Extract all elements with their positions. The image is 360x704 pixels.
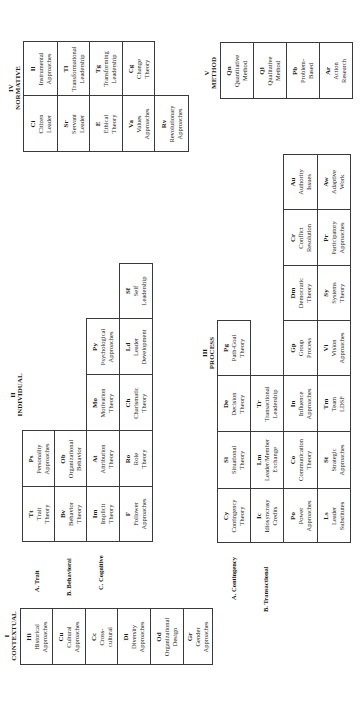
cell-name: Leadership	[271, 386, 279, 421]
cell-text: AtAttributionTheory	[91, 444, 115, 473]
cell-code: Ic	[255, 499, 263, 532]
cell-code: Tm	[322, 396, 330, 412]
taxonomy-cell-ob: ObOrganizationalBehavior	[54, 430, 87, 487]
cell-name: Theory	[305, 278, 313, 308]
cell-name: Exchange	[271, 439, 279, 481]
cell-text: AwAdaptiveWork	[322, 170, 346, 194]
cell-text: ObOrganizationalBehavior	[59, 439, 83, 478]
cell-name: Development	[140, 329, 148, 364]
cell-code: Dm	[289, 278, 297, 308]
taxonomy-cell-sy: SySystemsTheory	[317, 265, 351, 321]
cell-name: Theory	[107, 504, 115, 525]
cell-name: Leadership	[78, 46, 86, 91]
cell-code: Cg	[127, 59, 135, 79]
cell-text: PrParticipatoryApproaches	[322, 221, 346, 255]
cell-name: Transformational	[70, 46, 78, 91]
cell-text: InInfluenceApproaches	[289, 388, 313, 419]
taxonomy-cell-hi: HiHistoricalApproaches	[20, 608, 53, 665]
cell-code: Ci	[29, 114, 37, 133]
cell-text: LsLeaderSubstitutes	[322, 501, 346, 530]
cell-text: TmTeamLDSF	[322, 396, 346, 412]
cell-text: CcCross-cultural	[90, 627, 114, 647]
cell-code: St	[322, 444, 330, 475]
taxonomy-cell-cc: CcCross-cultural	[85, 608, 118, 665]
taxonomy-cell-dm: DmDemocraticTheory	[283, 265, 318, 321]
taxonomy-cell-va: VaValuesApproaches	[122, 95, 155, 152]
cell-name: Theory	[338, 282, 346, 304]
taxonomy-cell-di: DiDiversityApproaches	[117, 608, 151, 665]
cell-code: Tt	[27, 505, 35, 524]
cell-name: Approaches	[140, 498, 148, 529]
cell-code: Lm	[255, 439, 263, 481]
cell-text: IcIdiosyncrasyCredits	[255, 499, 279, 532]
cell-code: Ro	[124, 449, 132, 468]
cell-code: Bv	[59, 502, 67, 526]
section-title: PROCESS	[209, 328, 216, 378]
cell-code: Rv	[160, 105, 168, 142]
cell-name: Leader	[330, 501, 338, 530]
cell-text: DeDecisionTheory	[222, 392, 246, 415]
cell-code: Il	[29, 52, 37, 85]
taxonomy-cell-ld: LdLeaderDevelopment	[119, 318, 153, 375]
cell-code: At	[91, 444, 99, 473]
cell-code: Sf	[124, 277, 132, 306]
cell-name: Behavior	[75, 439, 83, 478]
cell-text: PbProblem-Based	[291, 58, 315, 82]
cell-name: Behavior	[67, 502, 75, 526]
section-title: INDIVIDUAL	[17, 365, 24, 425]
cell-name: Approaches	[338, 221, 346, 255]
cell-name: Strategic	[330, 444, 338, 475]
section-heading-method: V METHOD	[204, 48, 218, 98]
taxonomy-cell-cy: CyContingencyTheory	[217, 488, 251, 543]
cell-text: PsPersonalityApproaches	[27, 443, 51, 474]
cell-name: Follower	[132, 498, 140, 529]
taxonomy-cell-tg: TgTransformingLeadership	[89, 41, 123, 96]
cell-name: Ethical	[102, 114, 110, 133]
taxonomy-cell-si: SiSituationalTheory	[217, 431, 251, 489]
cell-text: MoMotivationTheory	[91, 388, 115, 417]
section-heading-normative: IV NORMATIVE	[8, 58, 22, 118]
taxonomy-cell-vi: ViVisionApproaches	[317, 320, 351, 376]
section-heading-contextual: I CONTEXTUAL	[4, 604, 18, 668]
cell-text: DmDemocraticTheory	[289, 278, 313, 308]
taxonomy-cell-at: AtAttributionTheory	[86, 430, 120, 487]
cell-name: Problem-	[299, 58, 307, 82]
taxonomy-cell-co: CoCommunicationTheory	[283, 431, 318, 489]
taxonomy-cell-tr: TrTransactionalLeadership	[250, 375, 284, 432]
cell-name: LDSF	[338, 396, 346, 412]
cell-text: BvBehaviorTheory	[59, 502, 83, 526]
cell-text: TlTransformationalLeadership	[62, 46, 86, 91]
cell-name: Charismatic	[132, 387, 140, 418]
cell-name: Approaches	[138, 621, 146, 652]
taxonomy-cell-ch: ChCharismaticTheory	[119, 374, 153, 431]
cell-text: LmLeader/MemberExchange	[255, 439, 279, 481]
cell-text: GrGenderApproaches	[186, 621, 210, 652]
cell-name: Approaches	[305, 500, 313, 531]
cell-text: RoRoleTheory	[124, 449, 148, 468]
taxonomy-cell-qn: QnQuantitativeMethod	[220, 42, 254, 99]
cell-name: Vision	[330, 332, 338, 363]
cell-code: Py	[91, 328, 99, 364]
cell-text: VaValuesApproaches	[127, 108, 151, 139]
cell-name: Power	[297, 500, 305, 531]
cell-text: CrConflictResolution	[289, 223, 313, 251]
cell-name: Design	[171, 617, 179, 656]
cell-code: Cc	[90, 627, 98, 647]
taxonomy-cell-mo: MoMotivationTheory	[86, 374, 120, 431]
cell-name: Democratic	[297, 278, 305, 308]
cell-code: Pg	[222, 335, 230, 361]
cell-code: Ar	[324, 59, 332, 83]
taxonomy-cell-cr: CrConflictResolution	[283, 209, 318, 266]
cell-name: Action	[332, 59, 340, 83]
taxonomy-cell-ic: IcIdiosyncrasyCredits	[250, 488, 284, 543]
taxonomy-cell-cu: CuCulturalApproaches	[52, 608, 86, 665]
cell-name: Attribution	[99, 444, 107, 473]
cell-name: Participatory	[330, 221, 338, 255]
cell-name: Situational	[230, 446, 238, 474]
cell-name: Approaches	[143, 108, 151, 139]
cell-code: Ch	[124, 387, 132, 418]
cell-text: QlQualitativeMethod	[258, 56, 282, 85]
cell-name: Theory	[107, 388, 115, 417]
taxonomy-cell-f: FFollowerApproaches	[119, 486, 153, 542]
taxonomy-cell-lm: LmLeader/MemberExchange	[250, 431, 284, 489]
